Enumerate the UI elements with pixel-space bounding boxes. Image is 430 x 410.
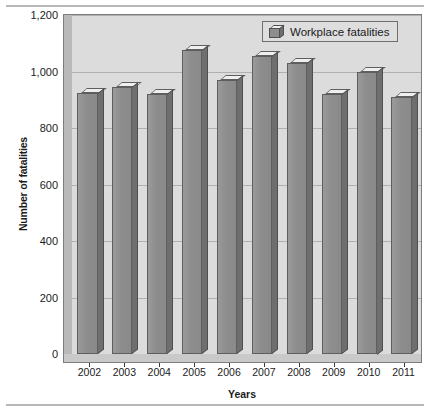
- bar-front-face: [322, 94, 342, 354]
- x-axis-title: Years: [62, 388, 422, 400]
- x-axis-tick-mark: [299, 363, 300, 367]
- x-axis-tick-label: 2011: [382, 366, 426, 378]
- bar-swatch-3d-icon: [269, 25, 284, 38]
- x-axis-tick-mark: [404, 363, 405, 367]
- top-divider-rule: [6, 5, 424, 7]
- bar-2003: [112, 87, 132, 354]
- y-axis-tick-label: 1,000: [14, 66, 58, 78]
- bar-front-face: [77, 93, 97, 354]
- bar-side-face: [377, 67, 383, 354]
- bar-front-face: [357, 72, 377, 355]
- bar-side-face: [237, 75, 243, 354]
- bar-2008: [287, 63, 307, 354]
- chart-legend: Workplace fatalities: [262, 21, 398, 42]
- bar-series: [72, 15, 421, 354]
- x-axis-tick-mark: [89, 363, 90, 367]
- bar-front-face: [182, 50, 202, 354]
- y-axis-tick-label: 800: [14, 122, 58, 134]
- y-axis-tick-label: 0: [14, 348, 58, 360]
- bar-front-face: [112, 87, 132, 354]
- bar-side-face: [412, 92, 418, 354]
- x-axis-tick-mark: [229, 363, 230, 367]
- bar-side-face: [132, 82, 138, 354]
- bar-chart: Number of fatalities Years 0200400600800…: [0, 0, 430, 410]
- bar-2007: [252, 56, 272, 354]
- bar-side-face: [202, 46, 208, 354]
- x-axis-tick-mark: [334, 363, 335, 367]
- bar-front-face: [252, 56, 272, 354]
- x-axis-tick-mark: [124, 363, 125, 367]
- bar-front-face: [391, 97, 411, 354]
- bar-front-face: [217, 80, 237, 354]
- plot-left-wall: [64, 15, 72, 362]
- y-axis-tick-label: 400: [14, 235, 58, 247]
- y-axis-tick-label: 1,200: [14, 9, 58, 21]
- bar-side-face: [272, 51, 278, 354]
- bar-2006: [217, 80, 237, 354]
- x-axis-tick-mark: [159, 363, 160, 367]
- bar-2004: [147, 94, 167, 354]
- bar-side-face: [342, 89, 348, 354]
- bar-2010: [357, 72, 377, 355]
- bar-front-face: [287, 63, 307, 354]
- bottom-divider-rule: [6, 404, 424, 406]
- bar-front-face: [147, 94, 167, 354]
- x-axis-tick-mark: [264, 363, 265, 367]
- y-axis-tick-label: 600: [14, 179, 58, 191]
- y-axis-tick-label: 200: [14, 292, 58, 304]
- x-axis-tick-mark: [194, 363, 195, 367]
- bar-2005: [182, 50, 202, 354]
- bar-2011: [391, 97, 411, 354]
- plot-area: [63, 14, 422, 363]
- bar-2009: [322, 94, 342, 354]
- bar-2002: [77, 93, 97, 354]
- x-axis-tick-mark: [369, 363, 370, 367]
- bar-side-face: [98, 88, 104, 354]
- y-axis-tick-labels: 02004006008001,0001,200: [12, 0, 58, 410]
- plot-floor: [64, 354, 421, 362]
- legend-entry-label: Workplace fatalities: [290, 26, 390, 38]
- bar-side-face: [307, 58, 313, 354]
- bar-side-face: [167, 89, 173, 354]
